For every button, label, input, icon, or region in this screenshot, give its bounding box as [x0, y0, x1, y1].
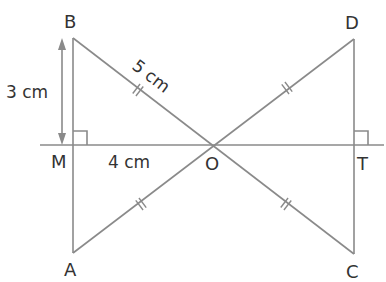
measure-bm: 3 cm [6, 82, 48, 102]
label-o: O [205, 153, 219, 174]
label-a: A [64, 259, 77, 280]
right-angle-m-icon [73, 131, 87, 145]
geometry-diagram: B M A O D T C 3 cm 5 cm 4 cm [0, 0, 386, 282]
label-c: C [346, 261, 359, 282]
measure-mo: 4 cm [108, 152, 150, 172]
double-arrow-bm-icon [58, 38, 66, 145]
right-angle-t-icon [354, 131, 368, 145]
label-t: T [356, 153, 369, 174]
label-d: D [345, 12, 359, 33]
label-b: B [64, 11, 76, 32]
label-m: M [51, 151, 67, 172]
